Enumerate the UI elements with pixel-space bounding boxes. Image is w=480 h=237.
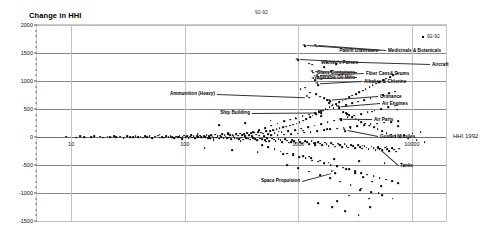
data-point	[270, 120, 272, 122]
data-point	[205, 137, 207, 139]
annotation-label: Guided Missiles	[380, 134, 415, 139]
gridline-y	[37, 53, 446, 54]
data-point	[314, 143, 316, 145]
data-point	[282, 141, 284, 143]
data-point	[357, 101, 359, 103]
y-axis-minor-tick	[35, 148, 37, 149]
data-point	[395, 151, 397, 153]
data-point	[218, 138, 220, 140]
data-point	[394, 91, 396, 93]
data-point	[267, 134, 269, 136]
data-point	[126, 136, 128, 138]
y-axis-minor-tick	[35, 120, 37, 121]
data-point	[348, 114, 350, 116]
annotation-label: Alkalies & Chlorine	[364, 79, 406, 84]
y-axis-tick-mark	[34, 221, 37, 222]
data-point	[329, 106, 331, 108]
data-point	[367, 174, 369, 176]
gridline-x	[412, 25, 413, 221]
data-point	[341, 146, 343, 148]
y-axis-minor-tick	[35, 69, 37, 70]
data-point	[330, 129, 332, 131]
data-point	[334, 172, 336, 174]
data-point	[332, 206, 334, 208]
x-axis-tick-label: 10000	[404, 141, 419, 147]
data-point	[370, 191, 372, 193]
data-point	[333, 158, 335, 160]
chart-top-note: 92-92	[255, 9, 268, 15]
data-point	[272, 129, 274, 131]
data-point	[257, 131, 259, 133]
data-point	[294, 129, 296, 131]
data-point	[249, 139, 251, 141]
data-point	[265, 131, 267, 133]
data-point	[280, 151, 282, 153]
y-axis-minor-tick	[35, 170, 37, 171]
data-point	[198, 136, 200, 138]
y-axis-tick-label: 0	[30, 134, 33, 140]
y-axis-tick-label: 1500	[21, 50, 33, 56]
data-point	[333, 120, 335, 122]
data-point	[308, 171, 310, 173]
data-point	[384, 162, 386, 164]
data-point	[197, 133, 199, 135]
y-axis-tick-label: 1000	[21, 78, 33, 84]
data-point	[287, 130, 289, 132]
data-point	[348, 169, 350, 171]
annotation-label: Ordnance	[380, 94, 402, 99]
data-point	[295, 142, 297, 144]
data-point	[302, 115, 304, 117]
data-point	[332, 104, 334, 106]
data-point	[350, 184, 352, 186]
data-point	[286, 164, 288, 166]
data-point	[289, 125, 291, 127]
data-point	[355, 93, 357, 95]
data-point	[181, 138, 183, 140]
data-point	[255, 134, 257, 136]
data-point	[218, 124, 220, 126]
data-point	[308, 97, 310, 99]
x-axis-tick-label: 10	[68, 141, 74, 147]
annotation-label: Fiber Cans& Drums	[366, 71, 409, 76]
y-axis-minor-tick	[35, 64, 37, 65]
annotation-arrowhead	[326, 98, 329, 100]
data-point	[79, 135, 81, 137]
data-point	[204, 147, 206, 149]
data-point	[420, 131, 422, 133]
data-point	[206, 134, 208, 136]
data-point	[119, 136, 121, 138]
data-point	[379, 177, 381, 179]
data-point	[397, 125, 399, 127]
data-point	[348, 147, 350, 149]
data-point	[398, 148, 400, 150]
data-point	[129, 136, 131, 138]
data-point	[311, 160, 313, 162]
data-point	[324, 162, 326, 164]
y-axis-tick-mark	[34, 25, 37, 26]
y-axis-minor-tick	[35, 204, 37, 205]
data-point	[268, 140, 270, 142]
data-point	[214, 134, 216, 136]
y-axis-minor-tick	[35, 187, 37, 188]
data-point	[297, 133, 299, 135]
data-point	[289, 119, 291, 121]
gridline-y	[37, 193, 446, 194]
data-point	[286, 153, 288, 155]
data-point	[266, 137, 268, 139]
data-point	[322, 110, 324, 112]
data-point	[348, 195, 350, 197]
annotation-label: Air Parts	[374, 117, 393, 122]
annotation-arrowhead	[324, 60, 327, 62]
data-point	[274, 148, 276, 150]
data-point	[385, 179, 387, 181]
data-point	[358, 91, 360, 93]
data-point	[368, 125, 370, 127]
data-point	[216, 137, 218, 139]
y-axis-minor-tick	[35, 41, 37, 42]
data-point	[356, 125, 358, 127]
data-point	[389, 76, 391, 78]
data-point	[154, 136, 156, 138]
data-point	[370, 124, 372, 126]
data-point	[292, 154, 294, 156]
annotation-label: Tanks	[400, 163, 413, 168]
